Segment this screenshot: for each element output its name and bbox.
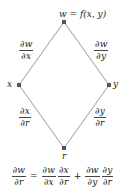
fraction-numerator: ∂w <box>12 166 26 177</box>
fraction-numerator: ∂w <box>85 166 99 177</box>
fraction-numerator: ∂w <box>94 40 108 51</box>
node-label-x: x <box>7 80 12 89</box>
fraction-denominator: ∂y <box>88 177 98 187</box>
fraction-numerator: ∂w <box>42 166 56 177</box>
fraction-denominator: ∂r <box>20 118 29 128</box>
formula-lhs: ∂w ∂r <box>12 166 26 187</box>
fraction-denominator: ∂r <box>59 177 68 187</box>
fraction-numerator: ∂x <box>58 166 70 177</box>
node-label-r: r <box>62 152 66 161</box>
edge-label-dw-dx: ∂w ∂x <box>19 40 33 61</box>
edge-label-dw-dy: ∂w ∂y <box>94 40 108 61</box>
fraction-denominator: ∂x <box>44 177 54 187</box>
edge-label-dx-dr: ∂x ∂r <box>19 107 31 128</box>
equals-sign: = <box>30 171 38 181</box>
node-r <box>62 146 66 150</box>
fraction-numerator: ∂y <box>102 166 114 177</box>
fraction-denominator: ∂r <box>95 118 104 128</box>
node-y <box>107 83 111 87</box>
formula-term2-factor2: ∂y ∂r <box>102 166 114 187</box>
fraction-denominator: ∂y <box>96 51 106 61</box>
formula-term2-factor1: ∂w ∂y <box>85 166 99 187</box>
fraction-numerator: ∂w <box>19 40 33 51</box>
fraction-numerator: ∂y <box>94 107 106 118</box>
node-label-w: w = f(x, y) <box>59 10 106 19</box>
fraction-denominator: ∂r <box>14 177 23 187</box>
node-x <box>17 83 21 87</box>
node-w <box>62 20 66 24</box>
formula-term1-factor1: ∂w ∂x <box>42 166 56 187</box>
fraction-denominator: ∂x <box>21 51 31 61</box>
fraction-denominator: ∂r <box>103 177 112 187</box>
chain-rule-formula: ∂w ∂r = ∂w ∂x ∂x ∂r + ∂w ∂y ∂y ∂r <box>0 163 125 189</box>
node-label-y: y <box>113 80 118 89</box>
edge-label-dy-dr: ∂y ∂r <box>94 107 106 128</box>
plus-sign: + <box>74 171 82 181</box>
formula-term1-factor2: ∂x ∂r <box>58 166 70 187</box>
fraction-numerator: ∂x <box>19 107 31 118</box>
